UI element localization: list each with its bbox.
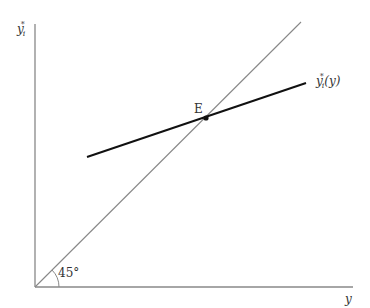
reaction-curve-label: y*i(y) <box>316 74 341 88</box>
equilibrium-label: E <box>194 102 203 116</box>
y-axis-label: y*i <box>17 22 25 36</box>
angle-label: 45° <box>58 266 79 280</box>
45-degree-line <box>35 22 301 287</box>
diagram-canvas <box>0 0 370 308</box>
reaction-curve <box>87 83 306 157</box>
equilibrium-point <box>203 115 208 120</box>
x-axis-label: y <box>345 292 352 306</box>
